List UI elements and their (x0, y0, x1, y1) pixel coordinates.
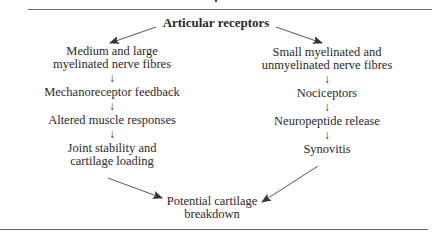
arrow-right-to-outcome (262, 166, 318, 202)
arrow-title-to-right (276, 27, 322, 43)
arrow-title-to-left (110, 27, 156, 43)
connector-arrows (0, 0, 442, 241)
bottom-rule (0, 229, 428, 230)
arrow-left-to-outcome (108, 178, 162, 198)
